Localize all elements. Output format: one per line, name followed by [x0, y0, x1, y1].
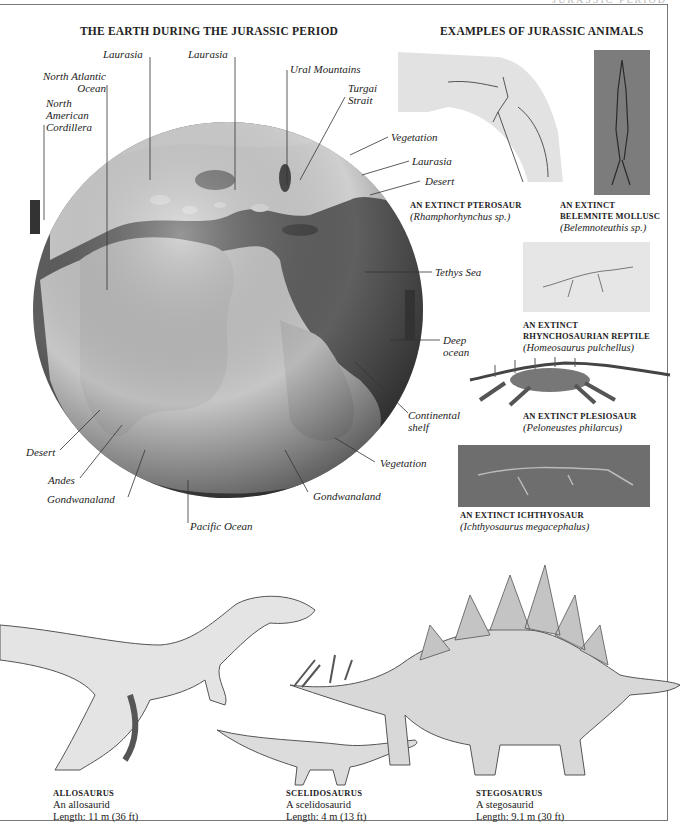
- label-desert-2: Desert: [26, 446, 55, 458]
- pterosaur-fossil-image: [398, 52, 563, 187]
- rhynchosaur-caption: AN EXTINCT RHYNCHOSAURIAN REPTILE (Homeo…: [523, 320, 650, 354]
- label-gondwanaland-1: Gondwanaland: [313, 490, 381, 502]
- plesiosaur-skeleton-image: [465, 355, 675, 410]
- ichthyosaur-caption: AN EXTINCT ICHTHYOSAUR (Ichthyosaurus me…: [460, 510, 589, 533]
- label-continental-shelf: Continental shelf: [408, 409, 460, 433]
- label-laurasia-2: Laurasia: [188, 48, 228, 60]
- pterosaur-caption: AN EXTINCT PTEROSAUR (Rhamphorhynchus sp…: [410, 200, 522, 223]
- belemnite-fossil-image: [594, 50, 650, 195]
- scelidosaurus-caption: SCELIDOSAURUS A scelidosaurid Length: 4 …: [286, 787, 366, 823]
- label-turgai-strait: Turgai Strait: [348, 82, 377, 106]
- label-tethys-sea: Tethys Sea: [435, 266, 481, 278]
- label-pacific-ocean: Pacific Ocean: [190, 520, 253, 532]
- label-vegetation-2: Vegetation: [380, 457, 426, 469]
- belemnite-caption: AN EXTINCT BELEMNITE MOLLUSC (Belemnoteu…: [560, 200, 660, 234]
- ichthyosaur-fossil-image: [458, 445, 650, 507]
- stegosaurus-illustration: [290, 565, 685, 785]
- plesiosaur-caption: AN EXTINCT PLESIOSAUR (Peloneustes phila…: [523, 411, 637, 434]
- stegosaurus-caption: STEGOSAURUS A stegosaurid Length: 9.1 m …: [476, 787, 564, 823]
- label-laurasia-1: Laurasia: [103, 48, 143, 60]
- rhynchosaur-fossil-image: [523, 242, 650, 312]
- label-ural-mountains: Ural Mountains: [290, 63, 361, 75]
- label-north-atlantic-ocean: North Atlantic Ocean: [40, 70, 106, 94]
- label-gondwanaland-2: Gondwanaland: [47, 493, 115, 505]
- label-andes: Andes: [48, 474, 75, 486]
- label-north-american-cordillera: North American Cordillera: [46, 97, 92, 133]
- allosaurus-caption: ALLOSAURUS An allosaurid Length: 11 m (3…: [53, 787, 138, 823]
